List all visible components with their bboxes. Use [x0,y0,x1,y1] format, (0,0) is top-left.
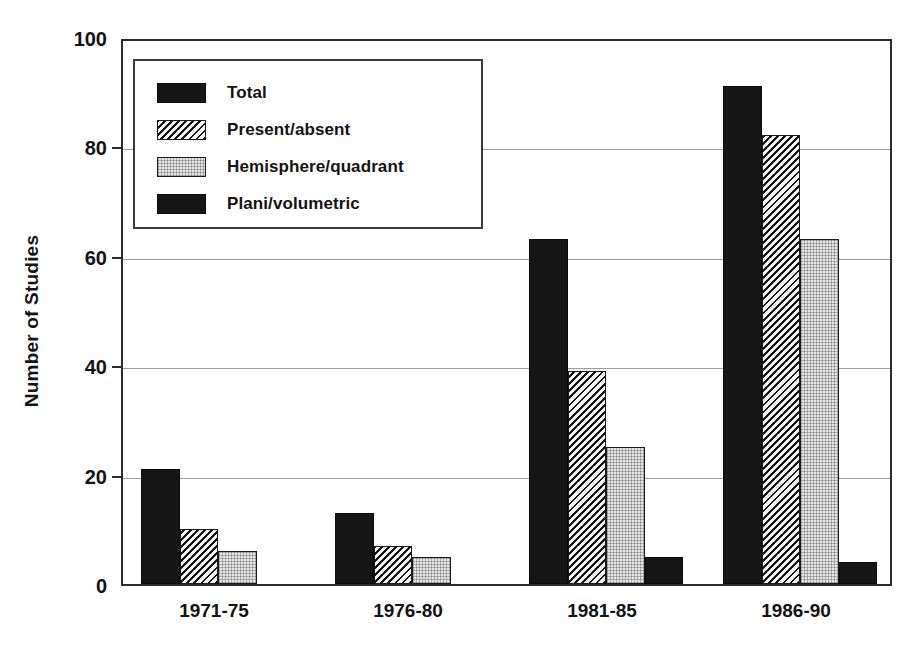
y-tick-label-80: 80 [49,138,107,158]
legend-label: Hemisphere/quadrant [227,157,404,177]
legend-label: Total [227,83,267,103]
bar-1971-75-total [141,469,180,584]
x-tick-label-1986-90: 1986-90 [706,600,886,622]
bar-1981-85-total [529,239,568,584]
legend-swatch-icon-plani-volumetric [157,194,206,214]
bar-1981-85-hemisphere-quadrant [606,447,645,584]
bar-1976-80-present-absent [374,546,413,584]
bar-1986-90-present-absent [762,135,801,584]
y-tick-label-100: 100 [49,29,107,49]
legend-swatch-icon-hemisphere-quadrant [157,157,206,177]
bar-1981-85-present-absent [568,371,607,584]
x-tick-label-1981-85: 1981-85 [512,600,692,622]
legend-item-hemisphere-quadrant: Hemisphere/quadrant [157,148,481,185]
y-tick-label-20: 20 [49,467,107,487]
legend-label: Present/absent [227,120,350,140]
y-tick-label-60: 60 [49,248,107,268]
y-tick-label-0: 0 [49,576,107,596]
legend-swatch-icon-present-absent [157,120,206,140]
chart-legend: TotalPresent/absentHemisphere/quadrantPl… [133,59,483,229]
bar-chart-figure: Number of Studies 020406080100 1971-7519… [0,0,917,648]
y-axis-title: Number of Studies [21,171,43,471]
legend-swatch-icon-total [157,83,206,103]
legend-item-plani-volumetric: Plani/volumetric [157,185,481,222]
bar-1971-75-hemisphere-quadrant [218,551,257,584]
bar-1986-90-total [723,86,762,584]
bar-1981-85-plani-volumetric [645,557,684,584]
legend-item-total: Total [157,74,481,111]
y-tick-mark-20 [112,476,121,478]
y-tick-mark-80 [112,147,121,149]
bar-1986-90-hemisphere-quadrant [800,239,839,584]
bar-1971-75-present-absent [180,529,219,584]
bar-1986-90-plani-volumetric [839,562,878,584]
y-tick-mark-60 [112,257,121,259]
x-tick-label-1971-75: 1971-75 [124,600,304,622]
y-tick-mark-40 [112,366,121,368]
y-tick-label-40: 40 [49,357,107,377]
x-tick-label-1976-80: 1976-80 [318,600,498,622]
bar-1976-80-total [335,513,374,584]
bar-1976-80-hemisphere-quadrant [412,557,451,584]
legend-item-present-absent: Present/absent [157,111,481,148]
legend-label: Plani/volumetric [227,194,360,214]
